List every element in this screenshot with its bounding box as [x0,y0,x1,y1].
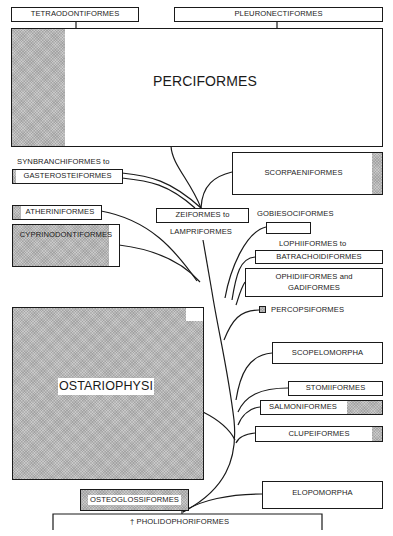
hatched-region [372,427,382,441]
taxon-label: OSTEOGLOSSIFORMES [88,495,181,505]
white-corner [186,308,203,321]
taxon-label: GASTEROSTEIFORMES [23,171,111,181]
taxon-label: ELOPOMORPHA [292,488,353,498]
taxon-atheriniformes: ATHERINIFORMES [12,205,102,220]
taxon-label: PLEURONECTIFORMES [234,9,322,19]
taxon-gobiesociformes [266,222,311,234]
taxon-ostariophysi: OSTARIOPHYSI [12,307,204,480]
taxon-label-lophiiformes: LOPHIIFORMES to [279,239,346,248]
taxon-label: STOMIIFORMES [306,383,366,393]
taxon-stomiiformes: STOMIIFORMES [288,381,383,396]
taxon-label: CLUPEIFORMES [288,429,349,439]
taxon-label: ZEIFORMES to [176,210,230,220]
taxon-label: CYPRINODONTIFORMES [20,230,113,240]
taxon-label: SCORPAENIFORMES [264,168,342,178]
taxon-zeiformes: ZEIFORMES to [156,208,249,223]
taxon-batrachoidiformes: BATRACHOIDIFORMES [255,250,383,264]
taxon-label-pholidophoriformes: † PHOLIDOPHORIFORMES [130,517,229,526]
taxon-label-synbranchiformes: SYNBRANCHIFORMES to [17,157,110,166]
taxon-perciformes: PERCIFORMES [11,28,383,147]
taxon-label: PERCIFORMES [153,72,257,91]
taxon-salmoniformes: SALMONIFORMES [260,400,383,415]
hatched-region [12,29,65,146]
taxon-label: BATRACHOIDIFORMES [276,252,362,262]
hatched-region [372,153,382,194]
taxon-label-percopsiformes: PERCOPSIFORMES [271,305,344,314]
taxon-scorpaeniformes: SCORPAENIFORMES [232,152,383,195]
taxon-label: ATHERINIFORMES [26,207,95,217]
taxon-clupeiformes: CLUPEIFORMES [255,426,383,442]
taxon-label: SCOPELOMORPHA [292,348,363,358]
taxon-label: GADIFORMES [288,283,340,293]
taxon-label: SALMONIFORMES [269,402,337,412]
taxon-label-lampriformes: LAMPRIFORMES [170,227,232,236]
taxon-osteoglossiformes: OSTEOGLOSSIFORMES [80,489,189,511]
taxon-label-gobiesociformes: GOBIESOCIFORMES [257,209,334,218]
hatched-region [13,206,21,219]
taxon-label: OSTARIOPHYSI [58,378,154,395]
taxon-gasterosteiformes: GASTEROSTEIFORMES [12,169,123,184]
taxon-scopelomorpha: SCOPELOMORPHA [272,342,383,364]
hatched-region [260,307,265,312]
taxon-cyprinodontiformes: CYPRINODONTIFORMES [12,224,120,267]
taxon-label: OPHIDIIFORMES and [275,272,352,282]
taxon-elopomorpha: ELOPOMORPHA [262,481,383,509]
taxon-percopsiformes-marker [259,306,266,313]
hatched-region [13,170,16,183]
taxon-tetraodontiformes: TETRAODONTIFORMES [11,7,139,22]
taxon-label: TETRAODONTIFORMES [31,9,120,19]
taxon-pleuronectiformes: PLEURONECTIFORMES [174,7,383,22]
taxon-ophidiiformes-gadiformes: OPHIDIIFORMES and GADIFORMES [245,268,383,297]
hatched-region [347,401,382,414]
